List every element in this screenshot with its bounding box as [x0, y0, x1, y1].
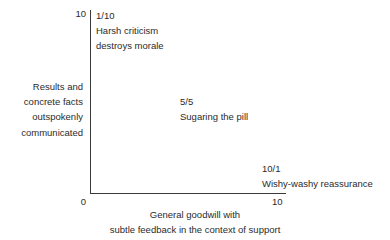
annotation-harsh-criticism-coord: 1/10 [96, 8, 164, 23]
y-axis-title-line-4: communicated [0, 125, 83, 140]
x-axis-title-line-1: General goodwill with [60, 207, 330, 222]
annotation-harsh-criticism-line-1: Harsh criticism [96, 23, 164, 38]
y-axis-tick-10: 10 [70, 8, 86, 19]
quadrant-chart: 10 0 10 Results and concrete facts outsp… [0, 0, 390, 240]
annotation-sugaring-the-pill-coord: 5/5 [180, 94, 248, 109]
y-axis-title-line-2: concrete facts [0, 94, 83, 109]
annotation-harsh-criticism: 1/10 Harsh criticism destroys morale [96, 8, 164, 54]
annotation-wishy-washy-reassurance-line-1: Wishy-washy reassurance [262, 176, 373, 191]
y-axis-title: Results and concrete facts outspokenly c… [0, 79, 83, 140]
y-axis-title-line-3: outspokenly [0, 109, 83, 124]
x-axis-line [90, 193, 286, 194]
x-axis-tick-10: 10 [272, 196, 283, 207]
annotation-wishy-washy-reassurance-coord: 10/1 [262, 161, 373, 176]
annotation-sugaring-the-pill-line-1: Sugaring the pill [180, 109, 248, 124]
y-axis-title-line-1: Results and [0, 79, 83, 94]
x-axis-title-line-2: subtle feedback in the context of suppor… [60, 222, 330, 237]
annotation-wishy-washy-reassurance: 10/1 Wishy-washy reassurance [262, 161, 373, 191]
annotation-harsh-criticism-line-2: destroys morale [96, 38, 164, 53]
y-axis-line [90, 10, 91, 194]
x-axis-tick-0: 0 [74, 196, 86, 207]
x-axis-title: General goodwill with subtle feedback in… [60, 207, 330, 237]
annotation-sugaring-the-pill: 5/5 Sugaring the pill [180, 94, 248, 124]
